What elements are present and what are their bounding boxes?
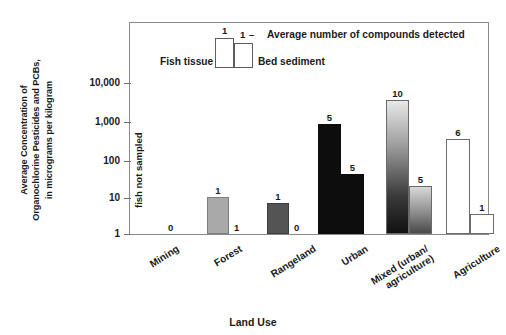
- agriculture-bed-sediment-bar: 1: [470, 214, 494, 234]
- legend-callout-text: Average number of compounds detected: [267, 29, 465, 40]
- agriculture-fish-tissue-value-label: 6: [455, 127, 460, 138]
- urban-fish-tissue-bar: 5: [318, 124, 341, 234]
- urban-bed-sediment-value-label: 5: [350, 162, 355, 173]
- rangeland-bed-sediment-value-label: 0: [294, 222, 299, 233]
- rangeland-fish-tissue-bar: 1: [267, 203, 289, 234]
- y-tick-label: 100: [103, 155, 120, 166]
- x-label-rangeland-line: Rangeland: [249, 243, 318, 292]
- rangeland-fish-tissue-value-label: 1: [275, 191, 280, 202]
- legend-bed-sediment-number: 1: [240, 29, 245, 40]
- mixed-bed-sediment-value-label: 5: [418, 174, 423, 185]
- forest-fish-tissue-value-label: 1: [215, 185, 220, 196]
- x-axis-title: Land Use: [0, 316, 506, 328]
- y-tick-label: 10,000: [89, 77, 120, 88]
- x-label-forest-line: Forest: [187, 243, 244, 284]
- chart-figure: Average Concentration of Organochlorine …: [0, 0, 506, 335]
- y-axis-title-line-1: Average Concentration of: [18, 25, 30, 255]
- plot-area: 10,000 1,000 100 10 1 Fish tissue 1 1 – …: [129, 22, 489, 235]
- agriculture-fish-tissue-bar: 6: [446, 139, 470, 234]
- y-tick-label: 1: [114, 228, 120, 239]
- legend: Fish tissue 1 1 – Bed sediment Average n…: [130, 23, 490, 83]
- legend-bed-sediment-label: Bed sediment: [258, 56, 325, 67]
- legend-swatch-fish-tissue: [215, 38, 234, 68]
- y-tick-label: 10: [109, 192, 120, 203]
- legend-callout-dash: –: [249, 29, 254, 40]
- urban-fish-tissue-value-label: 5: [327, 112, 332, 123]
- agriculture-bed-sediment-value-label: 1: [479, 202, 484, 213]
- x-label-forest: Forest: [187, 243, 244, 284]
- x-label-urban: Urban: [313, 243, 370, 284]
- y-tick-mark: [124, 122, 131, 123]
- mining-fish-not-sampled-note: fish not sampled: [133, 133, 144, 208]
- y-tick-mark: [124, 161, 131, 162]
- y-tick-mark: [124, 198, 131, 199]
- y-axis-title-line-3: in micrograms per kilogram: [43, 25, 55, 255]
- forest-fish-tissue-bar: 1: [207, 197, 229, 234]
- legend-fish-tissue-number: 1: [222, 25, 227, 36]
- x-label-agriculture: Agriculture: [432, 243, 502, 293]
- y-tick-label: 1,000: [95, 116, 120, 127]
- y-tick-mark: [124, 83, 131, 84]
- y-axis-title-line-2: Organochlorine Pesticides and PCBs,: [30, 25, 42, 255]
- forest-bed-sediment-value-label: 1: [234, 222, 239, 233]
- mixed-fish-tissue-value-label: 10: [392, 88, 403, 99]
- mining-bed-sediment-value-label: 0: [168, 222, 173, 233]
- mixed-fish-tissue-bar: 10: [386, 100, 409, 234]
- x-label-mining: Mining: [124, 243, 181, 284]
- x-label-agriculture-line: Agriculture: [432, 243, 502, 293]
- urban-bed-sediment-bar: 5: [341, 174, 364, 234]
- x-label-rangeland: Rangeland: [249, 243, 318, 292]
- x-label-mining-line: Mining: [124, 243, 181, 284]
- legend-swatch-bed-sediment: [234, 43, 253, 68]
- y-axis-title: Average Concentration of Organochlorine …: [18, 25, 62, 255]
- x-label-urban-line: Urban: [313, 243, 370, 284]
- legend-fish-tissue-label: Fish tissue: [160, 56, 213, 67]
- mixed-bed-sediment-bar: 5: [409, 186, 432, 234]
- y-tick-mark: [124, 234, 131, 235]
